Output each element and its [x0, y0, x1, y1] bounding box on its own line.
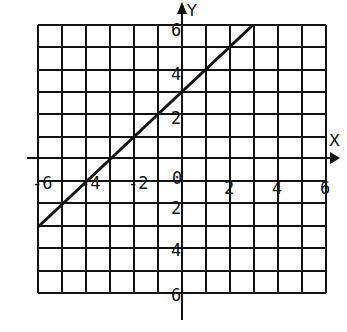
svg-text:-6: -6	[32, 173, 52, 193]
svg-text:2: 2	[224, 178, 234, 198]
svg-text:4: 4	[272, 178, 282, 198]
plotted-line	[38, 25, 253, 227]
svg-text:-4: -4	[80, 173, 100, 193]
svg-text:2: 2	[171, 108, 181, 128]
svg-text:2: 2	[171, 198, 181, 218]
svg-text:4: 4	[171, 240, 181, 260]
y-tick-labels: 6 4 2 2 4 6	[171, 20, 181, 305]
svg-text:4: 4	[171, 64, 181, 84]
y-axis-label: Y	[186, 1, 197, 20]
axes	[27, 10, 332, 320]
x-axis-arrow-icon	[330, 152, 340, 164]
svg-text:6: 6	[171, 285, 181, 305]
svg-text:0: 0	[172, 168, 182, 188]
y-axis-arrow-icon	[177, 2, 187, 14]
coordinate-plane: Y X -6 -4 -2 0 2 4 6 6 4 2 2 4 6	[0, 0, 347, 332]
svg-text:6: 6	[320, 178, 330, 198]
svg-text:-2: -2	[128, 173, 148, 193]
x-axis-label: X	[329, 131, 340, 150]
svg-text:6: 6	[171, 20, 181, 40]
